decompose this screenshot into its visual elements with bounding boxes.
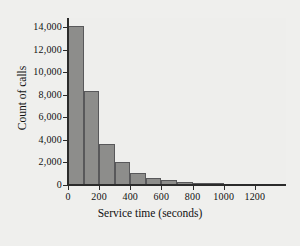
y-axis-tick bbox=[63, 117, 67, 118]
y-axis-tick-label: 6,000 bbox=[6, 111, 62, 122]
y-axis-line bbox=[67, 18, 69, 186]
histogram-bar bbox=[115, 162, 131, 185]
y-axis-tick bbox=[63, 162, 67, 163]
y-axis-tick bbox=[63, 140, 67, 141]
y-axis-tick bbox=[63, 27, 67, 28]
y-axis-tick-label: 4,000 bbox=[6, 134, 62, 145]
y-axis-tick-label: 14,000 bbox=[6, 21, 62, 32]
histogram-bar bbox=[84, 91, 100, 185]
y-axis-title: Count of calls bbox=[16, 38, 28, 158]
x-axis-tick bbox=[68, 186, 69, 190]
y-axis-tick-label: 12,000 bbox=[6, 44, 62, 55]
x-axis-tick-label: 1200 bbox=[235, 191, 275, 202]
y-axis-tick-label: 2,000 bbox=[6, 156, 62, 167]
y-axis-tick bbox=[63, 185, 67, 186]
histogram-bar bbox=[99, 144, 115, 185]
y-axis-tick bbox=[63, 72, 67, 73]
histogram-bar bbox=[68, 26, 84, 185]
plot-area bbox=[68, 18, 286, 185]
x-axis-tick bbox=[255, 186, 256, 190]
x-axis-tick bbox=[130, 186, 131, 190]
x-axis-title: Service time (seconds) bbox=[0, 207, 300, 219]
x-axis-line bbox=[68, 184, 286, 186]
histogram-figure: 02,0004,0006,0008,00010,00012,00014,000 … bbox=[0, 0, 300, 246]
bar-series bbox=[68, 18, 286, 185]
x-axis-tick bbox=[99, 186, 100, 190]
x-axis-tick bbox=[224, 186, 225, 190]
y-axis-tick-label: 10,000 bbox=[6, 66, 62, 77]
y-axis-tick bbox=[63, 50, 67, 51]
x-axis-tick bbox=[193, 186, 194, 190]
y-axis-tick-label: 0 bbox=[6, 179, 62, 190]
x-axis-tick bbox=[161, 186, 162, 190]
y-axis-tick bbox=[63, 95, 67, 96]
y-axis-tick-label: 8,000 bbox=[6, 89, 62, 100]
